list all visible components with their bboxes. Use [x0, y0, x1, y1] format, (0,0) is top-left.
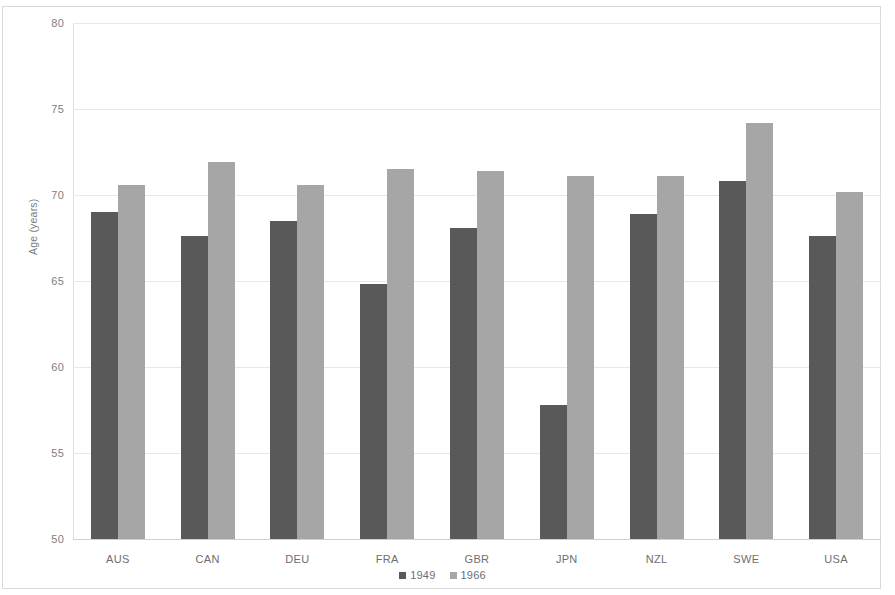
legend-label: 1949	[410, 569, 435, 581]
y-axis-tick-label: 80	[30, 17, 64, 29]
bar-group	[270, 23, 324, 539]
x-axis-label-nzl: NZL	[612, 553, 702, 565]
y-axis-tick-label: 50	[30, 533, 64, 545]
chart-frame: Age (years) 50556065707580 AUSCANDEUFRAG…	[2, 6, 881, 589]
x-axis-label-swe: SWE	[701, 553, 791, 565]
legend-entry-1949: 1949	[399, 569, 435, 581]
bar-aus-1949	[91, 212, 118, 539]
bar-deu-1966	[297, 185, 324, 539]
legend-swatch-icon	[399, 572, 406, 579]
bar-deu-1949	[270, 221, 297, 539]
bar-gbr-1966	[477, 171, 504, 539]
y-axis-tick-label: 70	[30, 189, 64, 201]
legend-swatch-icon	[450, 572, 457, 579]
bar-group	[809, 23, 863, 539]
gridline	[73, 539, 881, 540]
bar-can-1949	[181, 236, 208, 539]
x-axis-label-aus: AUS	[73, 553, 163, 565]
bar-swe-1949	[719, 181, 746, 539]
y-axis-tick-label: 55	[30, 447, 64, 459]
bar-gbr-1949	[450, 228, 477, 539]
bar-swe-1966	[746, 123, 773, 539]
legend-entry-1966: 1966	[450, 569, 486, 581]
x-axis-label-deu: DEU	[253, 553, 343, 565]
bar-aus-1966	[118, 185, 145, 539]
x-axis-label-gbr: GBR	[432, 553, 522, 565]
bar-fra-1949	[360, 284, 387, 539]
bar-group	[540, 23, 594, 539]
bar-group	[91, 23, 145, 539]
x-axis-label-usa: USA	[791, 553, 881, 565]
bar-can-1966	[208, 162, 235, 539]
bar-jpn-1949	[540, 405, 567, 539]
y-axis-tick-label: 75	[30, 103, 64, 115]
bar-group	[360, 23, 414, 539]
bar-usa-1949	[809, 236, 836, 539]
bar-fra-1966	[387, 169, 414, 539]
chart-legend: 19491966	[3, 569, 882, 581]
bar-nzl-1949	[630, 214, 657, 539]
legend-label: 1966	[461, 569, 486, 581]
x-axis-label-jpn: JPN	[522, 553, 612, 565]
bar-jpn-1966	[567, 176, 594, 539]
x-axis-label-can: CAN	[163, 553, 253, 565]
bar-group	[719, 23, 773, 539]
y-axis-title: Age (years)	[27, 199, 39, 255]
bar-nzl-1966	[657, 176, 684, 539]
bar-group	[450, 23, 504, 539]
x-axis-label-fra: FRA	[342, 553, 432, 565]
y-axis-tick-label: 65	[30, 275, 64, 287]
bar-group	[181, 23, 235, 539]
bar-usa-1966	[836, 192, 863, 539]
bar-group	[630, 23, 684, 539]
plot-area	[73, 23, 881, 539]
y-axis-tick-label: 60	[30, 361, 64, 373]
